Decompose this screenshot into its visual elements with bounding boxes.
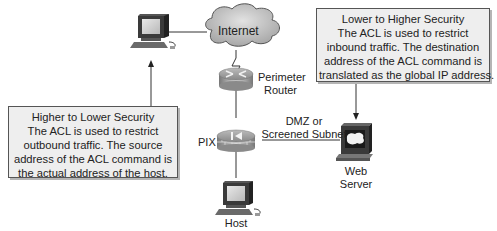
router-icon: [219, 68, 253, 91]
callout-outbound-line: outbound traffic. The source: [11, 138, 175, 152]
callout-inbound-line: inbound traffic. The destination: [319, 40, 487, 54]
arrow-up-icon: [148, 60, 154, 67]
callout-outbound-line: address of the ACL command is: [11, 152, 175, 166]
internet-label: Internet: [218, 25, 259, 38]
web-server-label: Web Server: [336, 165, 376, 191]
firewall-icon: [217, 130, 255, 152]
callout-inbound: Lower to Higher Security The ACL is used…: [316, 8, 490, 82]
dmz-label-line1: DMZ or: [259, 115, 349, 128]
pix-label: PIX: [198, 136, 216, 149]
dmz-label: DMZ or Screened Subnet: [259, 115, 349, 141]
web-server-label-line2: Server: [336, 178, 376, 191]
callout-inbound-line: translated as the global IP address.: [319, 68, 487, 82]
perimeter-router-label-line1: Perimeter: [258, 71, 318, 84]
arrow-down-icon: [353, 113, 359, 120]
web-server-label-line1: Web: [336, 165, 376, 178]
workstation-icon-host: [215, 181, 260, 216]
callout-inbound-line: The ACL is used to restrict: [319, 26, 487, 40]
callout-outbound-title: Higher to Lower Security: [11, 110, 175, 124]
callout-outbound-line: the actual address of the host.: [11, 166, 175, 180]
callout-outbound: Higher to Lower Security The ACL is used…: [8, 106, 178, 178]
callout-outbound-line: The ACL is used to restrict: [11, 124, 175, 138]
callout-inbound-line: address of the ACL command is: [319, 54, 487, 68]
dmz-label-line2: Screened Subnet: [259, 128, 349, 141]
perimeter-router-label: Perimeter Router: [258, 71, 318, 97]
host-label: Host: [221, 217, 251, 230]
perimeter-router-label-line2: Router: [258, 84, 318, 97]
callout-inbound-title: Lower to Higher Security: [319, 12, 487, 26]
workstation-icon-outside: [130, 14, 175, 49]
